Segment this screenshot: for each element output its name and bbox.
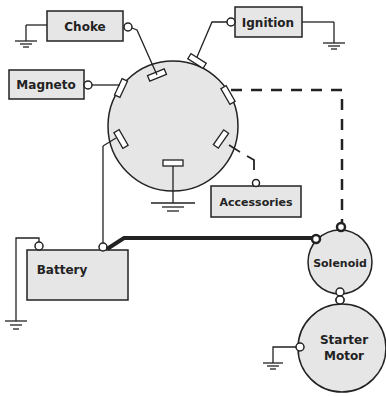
- magneto-box: Magneto: [9, 70, 120, 99]
- battery-cable: [107, 238, 314, 249]
- ignition-label: Ignition: [242, 16, 294, 30]
- magneto-label: Magneto: [16, 78, 75, 92]
- accessories-label: Accessories: [220, 196, 293, 209]
- starter-label-1: Starter: [320, 333, 368, 347]
- starter-motor: Starter Motor: [263, 296, 386, 392]
- battery-box: Battery: [5, 138, 128, 329]
- choke-box: Choke: [15, 11, 157, 75]
- wiring-diagram: Choke Ignition Magneto Accessories: [0, 0, 386, 396]
- solenoid: Solenoid: [308, 223, 372, 304]
- battery-label: Battery: [37, 263, 88, 277]
- ignition-box: Ignition: [197, 7, 345, 57]
- starter-label-2: Motor: [324, 349, 364, 363]
- choke-label: Choke: [64, 20, 105, 34]
- solenoid-label: Solenoid: [313, 257, 367, 270]
